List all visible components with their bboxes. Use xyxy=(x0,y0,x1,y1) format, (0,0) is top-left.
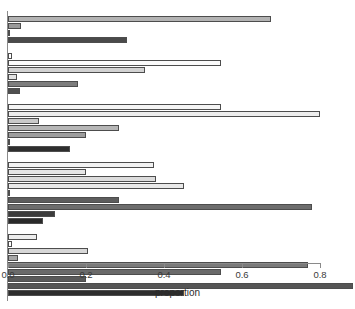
bar xyxy=(8,118,39,124)
bar xyxy=(8,248,88,254)
bar xyxy=(8,67,145,73)
x-tick-label: 0.4 xyxy=(157,269,170,280)
category-axis-segment xyxy=(7,157,8,229)
bar-chart: 0.00.20.40.60.8 proportion xyxy=(0,0,355,309)
x-tick xyxy=(164,263,165,268)
bar xyxy=(8,190,10,196)
x-tick xyxy=(320,263,321,268)
x-tick-label: 0.6 xyxy=(235,269,248,280)
bar xyxy=(8,241,12,247)
bar xyxy=(8,74,17,80)
bar xyxy=(8,139,10,145)
bar xyxy=(8,111,320,117)
bar xyxy=(8,125,119,131)
category-axis-segment xyxy=(7,11,8,48)
bar xyxy=(8,169,86,175)
bar xyxy=(8,16,271,22)
bar xyxy=(8,30,10,36)
bar xyxy=(8,211,55,217)
bar xyxy=(8,234,37,240)
category-axis-segment xyxy=(7,99,8,157)
bar xyxy=(8,176,156,182)
x-tick-label: 0.8 xyxy=(313,269,326,280)
x-tick xyxy=(86,263,87,268)
bar xyxy=(8,132,86,138)
x-tick-label: 0.2 xyxy=(79,269,92,280)
x-axis-title: proportion xyxy=(0,287,355,298)
bar xyxy=(8,104,221,110)
bar xyxy=(8,37,127,43)
category-axis-segment xyxy=(7,48,8,99)
x-tick xyxy=(8,263,9,268)
bar xyxy=(8,218,43,224)
bar xyxy=(8,23,21,29)
x-tick xyxy=(242,263,243,268)
bar xyxy=(8,60,221,66)
bar xyxy=(8,197,119,203)
bar xyxy=(8,146,70,152)
bar xyxy=(8,183,184,189)
bar xyxy=(8,53,12,59)
bar xyxy=(8,162,154,168)
x-tick-label: 0.0 xyxy=(1,269,14,280)
plot-area xyxy=(0,0,355,258)
bar xyxy=(8,88,20,94)
x-axis: 0.00.20.40.60.8 proportion xyxy=(0,258,355,309)
bar xyxy=(8,81,78,87)
bar xyxy=(8,204,312,210)
